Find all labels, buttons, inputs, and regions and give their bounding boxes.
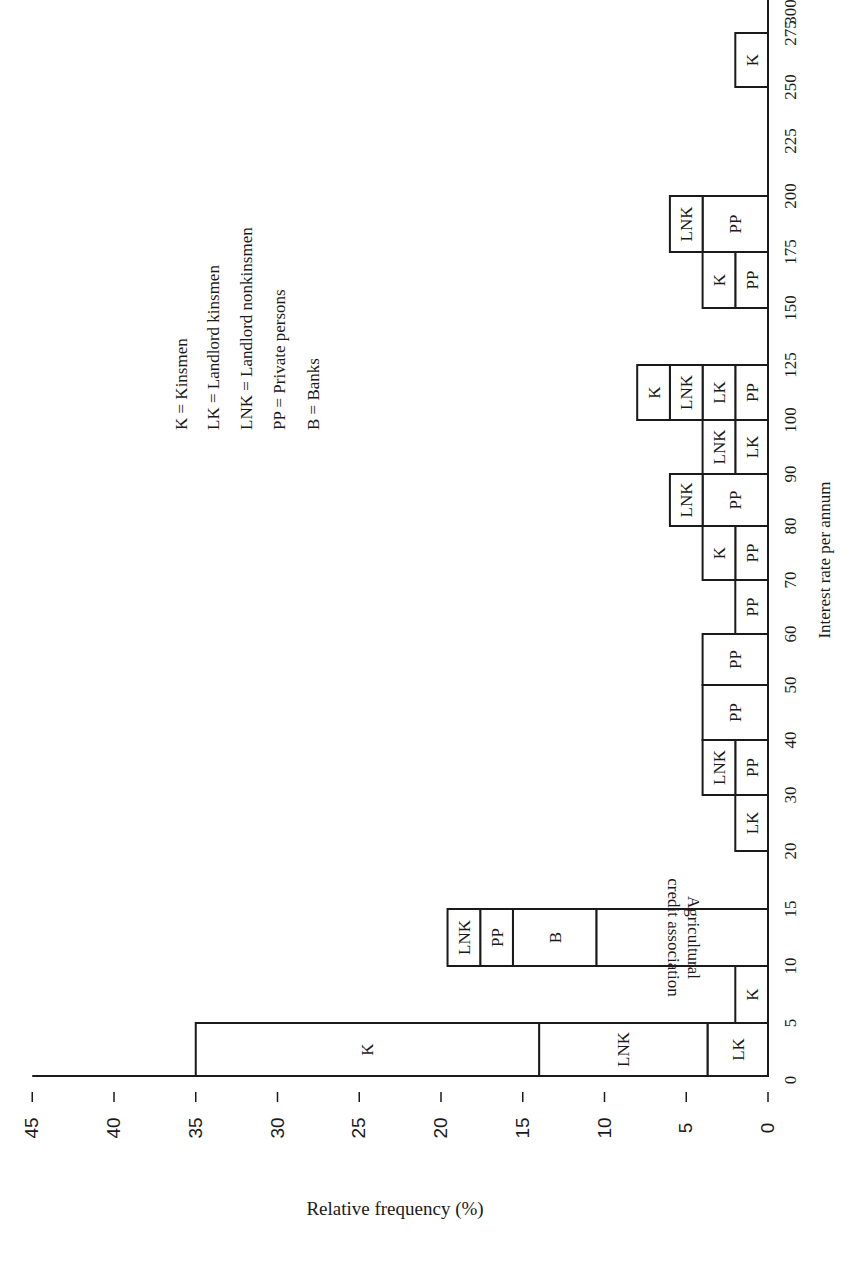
rate-tick-label: 50 xyxy=(781,677,800,694)
segment-label: LK xyxy=(729,1037,748,1060)
bar-bin: PP xyxy=(703,634,768,685)
rate-tick-label: 30 xyxy=(781,787,800,804)
stacked-bars: LKLNKKKAgriculturalcredit associationBPP… xyxy=(196,33,768,1076)
segment-label: LNK xyxy=(677,206,696,242)
segment-label: PP xyxy=(743,271,762,290)
rate-tick-label: 70 xyxy=(781,572,800,589)
frequency-tick-label: 45 xyxy=(21,1117,42,1138)
legend-entry: LK = Landlord kinsmen xyxy=(204,265,224,430)
segment-label: LNK xyxy=(677,482,696,518)
legend-entry: B = Banks xyxy=(304,358,324,430)
segment-label: PP xyxy=(726,491,745,510)
rate-tick-label: 150 xyxy=(781,295,800,321)
legend-entry: PP = Private persons xyxy=(270,289,290,430)
bar-bin: Agriculturalcredit associationBPPLNK xyxy=(448,878,768,997)
segment-label: K xyxy=(743,53,762,66)
segment-label: PP xyxy=(743,544,762,563)
segment-label: PP xyxy=(726,703,745,722)
histogram-chart: LKLNKKKAgriculturalcredit associationBPP… xyxy=(0,0,859,1286)
bar-bin: K xyxy=(735,966,768,1023)
frequency-tick-label: 40 xyxy=(103,1117,124,1138)
segment-label: LNK xyxy=(614,1031,633,1067)
rate-tick-label: 5 xyxy=(781,1019,800,1028)
segment-label: K xyxy=(710,273,729,286)
bar-bin: LKLNK xyxy=(703,420,768,474)
segment-label: PP xyxy=(726,650,745,669)
segment-label: PP xyxy=(726,215,745,234)
segment-label: K xyxy=(743,988,762,1001)
rate-tick-label: 125 xyxy=(781,352,800,378)
segment-label: LK xyxy=(743,811,762,834)
rate-tick-label: 225 xyxy=(781,128,800,154)
bar-bin: K xyxy=(735,33,768,87)
frequency-tick-label: 20 xyxy=(430,1117,451,1138)
frequency-tick-label: 35 xyxy=(185,1117,206,1138)
legend-entry: LNK = Landlord nonkinsmen xyxy=(237,227,257,430)
bar-bin: PPLNK xyxy=(703,740,768,795)
bar-bin: PPLKLNKK xyxy=(637,365,768,420)
frequency-tick-label: 5 xyxy=(675,1123,696,1134)
segment-label: LNK xyxy=(455,919,474,955)
segment-label: K xyxy=(710,546,729,559)
bar-bin: PPLNK xyxy=(670,196,768,252)
bar-bin: LKLNKK xyxy=(196,1023,768,1076)
frequency-tick-label: 15 xyxy=(512,1117,533,1138)
bar-bin: PP xyxy=(703,685,768,740)
segment-label: PP xyxy=(743,383,762,402)
frequency-tick-label: 0 xyxy=(757,1123,778,1134)
rate-tick-label: 80 xyxy=(781,518,800,535)
frequency-tick-label: 25 xyxy=(348,1117,369,1138)
segment-label: credit association xyxy=(664,878,683,997)
segment-label: PP xyxy=(743,758,762,777)
rate-tick-label: 300 xyxy=(781,0,800,25)
segment-label: K xyxy=(358,1043,377,1056)
bar-bin: PPK xyxy=(703,252,768,308)
bar-bin: LK xyxy=(735,795,768,851)
legend-entry: K = Kinsmen xyxy=(172,338,192,430)
frequency-tick-label: 30 xyxy=(267,1117,288,1138)
rate-tick-label: 175 xyxy=(781,239,800,265)
y-axis-label: Relative frequency (%) xyxy=(306,1198,483,1220)
rate-tick-label: 40 xyxy=(781,732,800,749)
segment-label: LNK xyxy=(677,374,696,410)
rate-tick-label: 10 xyxy=(781,958,800,975)
bar-bin: PPK xyxy=(703,526,768,580)
rate-tick-label: 0 xyxy=(781,1076,800,1085)
frequency-tick-label: 10 xyxy=(594,1117,615,1138)
segment-label: LK xyxy=(710,380,729,403)
segment-label: B xyxy=(546,932,565,943)
segment-label: LNK xyxy=(710,749,729,785)
bar-bin: PPLNK xyxy=(670,474,768,526)
rate-tick-label: 100 xyxy=(781,407,800,433)
bar-bin: PP xyxy=(735,580,768,634)
rate-tick-label: 90 xyxy=(781,466,800,483)
x-axis-label: Interest rate per annum xyxy=(815,481,834,638)
segment-label: Agricultural xyxy=(684,896,703,979)
segment-label: LNK xyxy=(710,429,729,465)
rate-tick-label: 200 xyxy=(781,183,800,209)
rate-tick-label: 20 xyxy=(781,843,800,860)
segment-label: PP xyxy=(743,598,762,617)
segment-label: LK xyxy=(743,435,762,458)
segment-label: K xyxy=(645,386,664,399)
rate-tick-label: 15 xyxy=(781,901,800,918)
rate-tick-label: 60 xyxy=(781,626,800,643)
segment-label: PP xyxy=(488,928,507,947)
rate-tick-label: 250 xyxy=(781,74,800,100)
